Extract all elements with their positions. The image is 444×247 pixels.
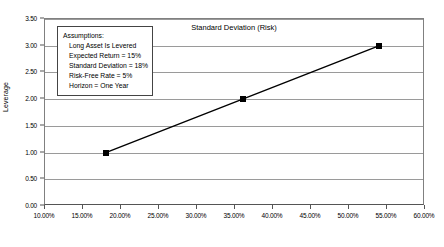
y-tick-label: 2.50: [25, 68, 37, 75]
x-tick-label: 30.00%: [186, 212, 207, 219]
x-tick-mark: [196, 205, 197, 209]
x-tick-label: 15.00%: [72, 212, 93, 219]
x-tick-label: 50.00%: [338, 212, 359, 219]
y-axis-title: Leverage: [2, 82, 9, 112]
leverage-risk-chart: 0.000.501.001.502.002.503.003.50 Leverag…: [0, 0, 444, 247]
assumption-line: Expected Return = 15%: [63, 51, 147, 61]
x-tick-mark: [120, 205, 121, 209]
x-tick-mark: [348, 205, 349, 209]
assumption-line: Standard Deviation = 18%: [63, 61, 147, 71]
x-tick-mark: [272, 205, 273, 209]
data-point: [376, 43, 382, 49]
assumption-line: Horizon = One Year: [63, 81, 147, 91]
x-tick-mark: [424, 205, 425, 209]
y-tick-label: 3.50: [25, 15, 37, 22]
y-tick-label: 1.00: [25, 148, 37, 155]
x-axis-title: Standard Deviation (Risk): [191, 23, 276, 32]
y-tick-label: 3.00: [25, 41, 37, 48]
x-tick-label: 10.00%: [34, 212, 55, 219]
x-tick-label: 35.00%: [224, 212, 245, 219]
y-tick-label: 1.50: [25, 121, 37, 128]
x-tick-mark: [386, 205, 387, 209]
assumption-line: Long Asset Is Levered: [63, 41, 147, 51]
data-point: [103, 150, 109, 156]
assumptions-lines: Long Asset Is LeveredExpected Return = 1…: [63, 41, 147, 91]
x-tick-label: 60.00%: [414, 212, 435, 219]
x-tick-mark: [82, 205, 83, 209]
assumptions-box: Assumptions: Long Asset Is LeveredExpect…: [57, 26, 153, 96]
y-tick-label: 0.50: [25, 175, 37, 182]
assumptions-title: Assumptions:: [63, 31, 147, 41]
x-tick-label: 40.00%: [262, 212, 283, 219]
x-tick-mark: [158, 205, 159, 209]
assumption-line: Risk-Free Rate = 5%: [63, 71, 147, 81]
x-tick-label: 25.00%: [148, 212, 169, 219]
x-tick-mark: [44, 205, 45, 209]
x-tick-label: 20.00%: [110, 212, 131, 219]
x-tick-mark: [310, 205, 311, 209]
data-point: [240, 96, 246, 102]
x-tick-label: 55.00%: [376, 212, 397, 219]
x-tick-mark: [234, 205, 235, 209]
x-axis: 10.00%15.00%20.00%25.00%30.00%35.00%40.0…: [0, 205, 444, 247]
x-tick-label: 45.00%: [300, 212, 321, 219]
y-tick-label: 2.00: [25, 95, 37, 102]
